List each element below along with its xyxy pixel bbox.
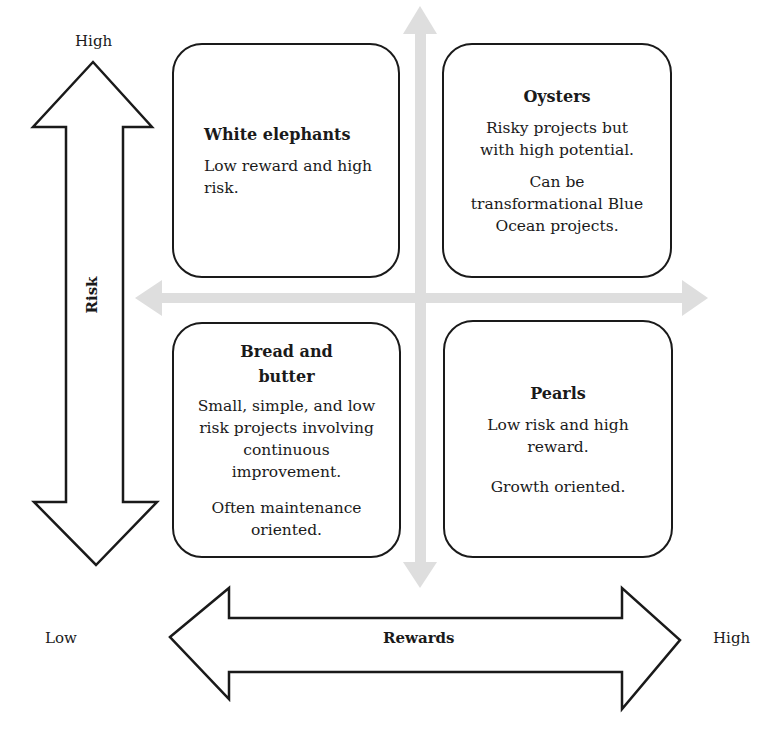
quadrant-description: Risky projects but with high potential. xyxy=(470,117,645,161)
quadrant-oysters: Oysters Risky projects but with high pot… xyxy=(442,43,672,278)
quadrant-title: White elephants xyxy=(204,122,350,147)
quadrant-description: Can be transformational Blue Ocean proje… xyxy=(465,171,650,237)
quadrant-title: Bread and butter xyxy=(232,339,342,389)
quadrant-bread-and-butter: Bread and butter Small, simple, and low … xyxy=(172,322,401,558)
quadrant-description: Small, simple, and low risk projects inv… xyxy=(197,395,377,483)
rewards-high-label: High xyxy=(713,629,750,647)
quadrant-title: Pearls xyxy=(530,381,586,406)
rewards-double-arrow-icon xyxy=(170,588,680,709)
quadrant-title: Oysters xyxy=(523,84,590,109)
risk-axis-label: Risk xyxy=(83,275,101,315)
quadrant-description: Low risk and high reward. xyxy=(478,414,638,458)
rewards-axis-label: Rewards xyxy=(383,629,454,647)
rewards-low-label: Low xyxy=(45,629,77,647)
quadrant-pearls: Pearls Low risk and high reward. Growth … xyxy=(443,320,673,558)
quadrant-description: Growth oriented. xyxy=(491,476,626,498)
risk-high-label: High xyxy=(75,32,112,50)
quadrant-white-elephants: White elephants Low reward and high risk… xyxy=(172,43,400,278)
quadrant-description: Low reward and high risk. xyxy=(204,155,384,199)
quadrant-description: Often maintenance oriented. xyxy=(202,497,372,541)
